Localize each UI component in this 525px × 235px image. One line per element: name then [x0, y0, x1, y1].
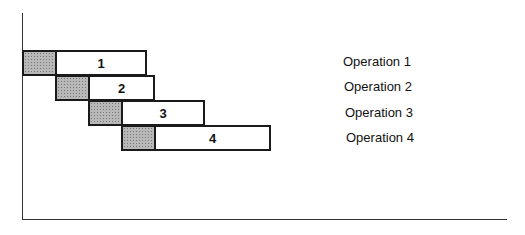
- bar-label: 4: [209, 131, 216, 146]
- operation-label: Operation 1: [343, 54, 411, 69]
- x-axis: [22, 219, 507, 220]
- overhead-segment: [121, 125, 156, 151]
- operation-bar: 3: [121, 100, 205, 126]
- bar-label: 2: [118, 81, 125, 96]
- overhead-segment: [88, 100, 123, 126]
- operation-bar: 1: [55, 50, 147, 76]
- operation-label: Operation 4: [346, 130, 414, 145]
- bar-label: 1: [97, 56, 104, 71]
- operation-label: Operation 2: [344, 79, 412, 94]
- bar-label: 3: [159, 106, 166, 121]
- overhead-segment: [55, 75, 90, 101]
- overhead-segment: [22, 50, 57, 76]
- operations-diagram: 1 Operation 1 2 Operation 2 3 Operation …: [0, 0, 525, 235]
- operation-label: Operation 3: [345, 105, 413, 120]
- operation-bar: 2: [88, 75, 155, 101]
- operation-bar: 4: [154, 125, 271, 151]
- y-axis: [22, 13, 23, 220]
